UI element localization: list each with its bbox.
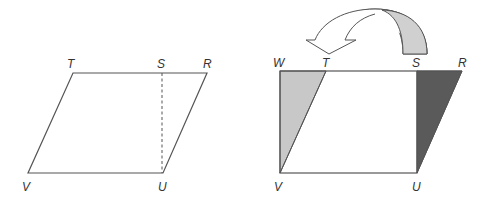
label-s-right: S bbox=[412, 57, 420, 69]
label-u-left: U bbox=[158, 181, 167, 193]
left-parallelogram bbox=[28, 73, 207, 173]
diagram-canvas bbox=[0, 0, 483, 201]
right-rectangle bbox=[280, 71, 462, 173]
label-r-left: R bbox=[203, 58, 212, 70]
parallelogram-shape bbox=[28, 73, 207, 173]
label-t-left: T bbox=[67, 58, 74, 70]
label-s-left: S bbox=[157, 58, 165, 70]
label-v-right: V bbox=[274, 181, 282, 193]
curved-arrow-icon bbox=[306, 9, 427, 54]
label-w-right: W bbox=[273, 57, 284, 69]
label-t-right: T bbox=[322, 57, 329, 69]
label-r-right: R bbox=[458, 57, 467, 69]
label-v-left: V bbox=[22, 181, 30, 193]
label-u-right: U bbox=[412, 181, 421, 193]
